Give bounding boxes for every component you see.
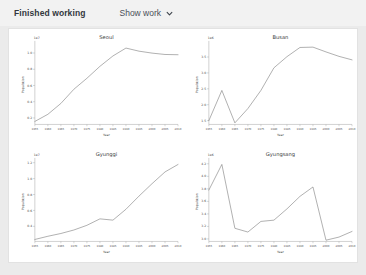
- y-tick-label: 3.0: [201, 71, 206, 75]
- chart-title: Busan: [272, 34, 288, 40]
- x-tick-label: 1980: [97, 128, 104, 131]
- y-tick-label: 3.2: [201, 224, 206, 228]
- chart-grid: 0.20.40.60.81.01e71955196019651970197519…: [9, 29, 357, 262]
- x-tick-label: 1980: [271, 244, 278, 247]
- x-tick-label: 1995: [136, 128, 143, 131]
- x-tick-label: 2010: [349, 128, 356, 131]
- x-tick-label: 1970: [70, 128, 77, 131]
- y-tick-label: 3.6: [201, 199, 206, 203]
- y-axis-label: Population: [21, 193, 25, 210]
- x-tick-label: 2005: [336, 244, 343, 247]
- x-tick-label: 2010: [349, 244, 356, 247]
- axis-spines: [209, 158, 352, 242]
- x-tick-label: 1975: [84, 244, 91, 247]
- x-tick-label: 1990: [123, 128, 130, 131]
- y-tick-label: 0.8: [27, 67, 32, 71]
- y-tick-label: 0.2: [27, 116, 32, 120]
- x-tick-label: 1995: [310, 244, 317, 247]
- x-tick-label: 1985: [284, 244, 291, 247]
- y-tick-label: 0.4: [27, 100, 32, 104]
- data-series-line: [209, 164, 352, 240]
- x-tick-label: 2005: [162, 128, 169, 131]
- y-tick-label: 0.6: [27, 84, 32, 88]
- axis-spines: [35, 158, 178, 242]
- x-tick-label: 1985: [284, 128, 291, 131]
- x-tick-label: 1955: [31, 128, 38, 131]
- line-chart: 3.03.23.43.63.84.04.21e61955196019651970…: [183, 146, 357, 263]
- y-axis-label: Population: [21, 76, 25, 93]
- y-tick-label: 2.0: [201, 103, 206, 107]
- y-tick-label: 0.6: [27, 208, 32, 212]
- x-tick-label: 1955: [31, 244, 38, 247]
- chart-title: Seoul: [99, 34, 113, 40]
- y-tick-label: 4.2: [201, 162, 206, 166]
- x-axis-label: Year: [277, 133, 284, 137]
- chart-panel-seoul: 0.20.40.60.81.01e71955196019651970197519…: [9, 29, 183, 146]
- x-tick-label: 1960: [218, 244, 225, 247]
- x-tick-label: 1965: [231, 244, 238, 247]
- y-tick-label: 0.4: [27, 224, 32, 228]
- assistant-header: Finished working Show work: [0, 0, 366, 26]
- x-tick-label: 1980: [271, 128, 278, 131]
- x-tick-label: 1960: [44, 128, 51, 131]
- x-tick-label: 1990: [123, 244, 130, 247]
- y-axis-label: Population: [195, 193, 199, 210]
- data-series-line: [35, 164, 178, 239]
- x-tick-label: 2010: [175, 244, 182, 247]
- y-tick-label: 3.0: [201, 237, 206, 241]
- x-tick-label: 1965: [231, 128, 238, 131]
- x-tick-label: 1985: [110, 244, 117, 247]
- screenshot-root: Finished working Show work 0.20.40.60.81…: [0, 0, 366, 275]
- y-tick-label: 3.5: [201, 55, 206, 59]
- chart-title: Gyungsang: [266, 151, 295, 158]
- show-work-toggle[interactable]: Show work: [120, 8, 174, 18]
- x-tick-label: 1970: [244, 244, 251, 247]
- y-axis-exponent: 1e7: [34, 36, 40, 40]
- chevron-down-icon: [166, 10, 173, 17]
- x-tick-label: 1955: [205, 128, 212, 131]
- status-label: Finished working: [14, 8, 86, 18]
- x-tick-label: 1985: [110, 128, 117, 131]
- data-series-line: [35, 48, 178, 121]
- y-tick-label: 3.8: [201, 187, 206, 191]
- x-tick-label: 2000: [149, 128, 156, 131]
- y-axis-exponent: 1e6: [208, 153, 214, 157]
- line-chart: 1.52.02.53.03.51e61955196019651970197519…: [183, 29, 357, 146]
- x-tick-label: 2010: [175, 128, 182, 131]
- y-tick-label: 1.0: [27, 177, 32, 181]
- x-tick-label: 1955: [205, 244, 212, 247]
- x-tick-label: 2000: [323, 128, 330, 131]
- chart-panel-gyunggi: 0.40.60.81.01.21e71955196019651970197519…: [9, 146, 183, 263]
- x-tick-label: 1980: [97, 244, 104, 247]
- x-tick-label: 1970: [70, 244, 77, 247]
- x-tick-label: 1970: [244, 128, 251, 131]
- chart-card: 0.20.40.60.81.01e71955196019651970197519…: [8, 28, 358, 263]
- x-tick-label: 1995: [136, 244, 143, 247]
- x-tick-label: 1990: [297, 244, 304, 247]
- y-tick-label: 0.8: [27, 192, 32, 196]
- y-axis-exponent: 1e6: [208, 36, 214, 40]
- chart-panel-busan: 1.52.02.53.03.51e61955196019651970197519…: [183, 29, 357, 146]
- x-tick-label: 1960: [44, 244, 51, 247]
- x-tick-label: 1975: [258, 128, 265, 131]
- x-tick-label: 1965: [57, 244, 64, 247]
- x-axis-label: Year: [103, 133, 110, 137]
- x-tick-label: 1990: [297, 128, 304, 131]
- chart-panel-gyungsang: 3.03.23.43.63.84.04.21e61955196019651970…: [183, 146, 357, 263]
- x-axis-label: Year: [103, 250, 110, 254]
- y-tick-label: 3.4: [201, 212, 206, 216]
- y-tick-label: 4.0: [201, 174, 206, 178]
- x-tick-label: 2005: [336, 128, 343, 131]
- line-chart: 0.40.60.81.01.21e71955196019651970197519…: [9, 146, 183, 263]
- data-series-line: [209, 47, 352, 123]
- x-tick-label: 2000: [149, 244, 156, 247]
- y-tick-label: 2.5: [201, 87, 206, 91]
- x-tick-label: 1960: [218, 128, 225, 131]
- x-tick-label: 1975: [258, 244, 265, 247]
- x-tick-label: 1995: [310, 128, 317, 131]
- x-tick-label: 2005: [162, 244, 169, 247]
- y-tick-label: 1.0: [27, 51, 32, 55]
- line-chart: 0.20.40.60.81.01e71955196019651970197519…: [9, 29, 183, 146]
- y-tick-label: 1.2: [27, 161, 32, 165]
- x-tick-label: 1975: [84, 128, 91, 131]
